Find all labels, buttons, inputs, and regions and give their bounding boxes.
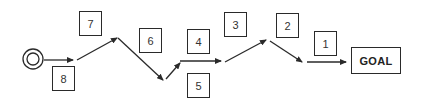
step-number: 8 (60, 73, 66, 85)
step-box-4: 4 (187, 29, 210, 54)
step-number: 4 (195, 36, 201, 48)
step-box-5: 5 (187, 73, 210, 98)
start-icon (23, 49, 43, 69)
goal-box: GOAL (351, 47, 401, 74)
step-box-6: 6 (139, 28, 162, 53)
step-number: 6 (147, 35, 153, 47)
arrow-segment (166, 63, 180, 79)
step-number: 7 (87, 18, 93, 30)
arrow-segment (270, 41, 302, 62)
step-box-2: 2 (276, 13, 299, 38)
step-number: 3 (232, 19, 238, 31)
step-box-1: 1 (314, 31, 337, 56)
step-number: 1 (322, 38, 328, 50)
path-to-goal-diagram: 87645321 GOAL (0, 0, 421, 106)
step-box-8: 8 (52, 66, 75, 91)
arrow-segment (225, 40, 266, 62)
arrow-segment (77, 38, 117, 60)
goal-label: GOAL (360, 55, 393, 67)
step-box-7: 7 (79, 11, 102, 36)
step-number: 5 (195, 80, 201, 92)
step-box-3: 3 (224, 12, 247, 37)
step-number: 2 (284, 20, 290, 32)
